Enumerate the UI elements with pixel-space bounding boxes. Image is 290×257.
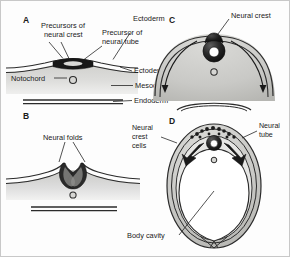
panel-b-notochord [70,192,76,198]
panel-b-embryo [6,163,140,211]
panel-letter-b: B [23,111,29,121]
label-notochord: Notochord [11,74,45,83]
panel-letter-a: A [23,15,29,25]
panel-d: D [127,116,280,248]
panel-c-gut-arc-inner [181,106,247,111]
panel-c-leader-lines [218,19,229,34]
neural-tube-precursor-zone [64,61,83,66]
label-precursor-of-neural-tube-line1: Precursor of [102,28,143,37]
panel-c-embryo [153,33,275,111]
panel-letter-d: D [169,116,175,126]
label-neural-tube-line1: Neural [259,122,280,130]
label-precursor-of-neural-tube-line2: neural tube [102,37,139,46]
label-neural-folds: Neural folds [43,133,83,142]
panel-c-neural-tube-lumen [209,47,219,57]
panel-d-neural-tube-lumen [210,140,217,147]
label-neural-tube-line2: tube [259,131,273,139]
label-precursors-of-neural-crest-line1: Precursors of [41,21,86,30]
label-neural-crest-cells-line3: cells [132,142,147,150]
panel-c: C Neu [153,11,275,111]
panel-d-notochord [211,157,217,163]
label-ectoderm-top: Ectoderm [133,14,165,23]
panel-letter-c: C [169,15,175,25]
label-neural-crest-cells-line1: Neural [132,124,153,132]
label-precursors-of-neural-crest-line2: neural crest [44,30,83,39]
panel-c-gut-arc-outer [177,103,251,110]
panel-b: B Neural folds [6,111,140,211]
panel-c-notochord [211,69,217,75]
label-neural-crest: Neural crest [231,11,271,20]
label-neural-crest-cells-line2: crest [132,133,147,141]
notochord-structure [70,77,77,84]
panel-a: A Precursor [6,14,170,105]
panel-d-embryo [167,124,261,248]
label-body-cavity: Body cavity [127,231,165,240]
panel-b-leader-lines [59,142,85,162]
embryology-figure-neural-crest: A Precursor [0,0,290,257]
